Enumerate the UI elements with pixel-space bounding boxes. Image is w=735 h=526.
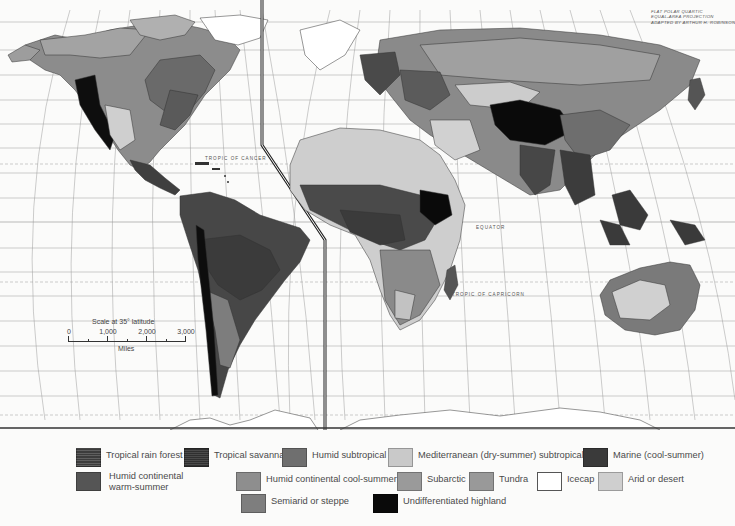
legend-label: Marine (cool-summer): [613, 450, 704, 461]
marine-swatch: [583, 448, 608, 467]
tropical-rain-forest-swatch: [76, 448, 101, 467]
legend-item-mediterranean: Mediterranean (dry-summer) subtropical: [388, 448, 584, 467]
humid-continental-warm-swatch: [76, 472, 101, 491]
scale-tick: [68, 336, 69, 342]
legend-label: Icecap: [567, 474, 594, 485]
credit-line-3: adapted by Arthur H. Robinson: [651, 20, 735, 25]
legend-item-tropical-rain-forest: Tropical rain forest: [76, 448, 183, 467]
legend-label: Tropical rain forest: [106, 450, 183, 461]
legend-item-highland: Undifferentiated highland: [373, 494, 506, 513]
legend-item-marine: Marine (cool-summer): [583, 448, 704, 467]
legend-label: Humid subtropical: [312, 450, 386, 461]
legend-item-humid-continental-cool: Humid continental cool-summer: [236, 472, 397, 491]
tropical-savanna-swatch: [184, 448, 209, 467]
scale-tick-label: 2,000: [138, 328, 156, 335]
tropic-of-capricorn-label: TROPIC OF CAPRICORN: [452, 292, 525, 297]
scale-tick-label: 0: [67, 328, 71, 335]
scale-tick-label: 1,000: [99, 328, 117, 335]
legend-label: Subarctic: [427, 474, 466, 485]
scale-tick: [146, 336, 147, 342]
legend-label: Tropical savanna: [214, 450, 284, 461]
legend-item-tundra: Tundra: [469, 472, 528, 491]
legend-label: Humid continental warm-summer: [109, 471, 189, 493]
humid-subtropical-swatch: [282, 448, 307, 467]
semiarid-swatch: [241, 494, 266, 513]
arid-swatch: [598, 472, 623, 491]
climate-legend: Tropical rain forest Tropical savanna Hu…: [0, 431, 735, 526]
tropic-of-cancer-label: TROPIC OF CANCER: [205, 156, 267, 161]
legend-label: Tundra: [499, 474, 528, 485]
icecap-swatch: [537, 472, 562, 491]
legend-item-humid-continental-warm: Humid continental warm-summer: [76, 472, 189, 493]
legend-item-subarctic: Subarctic: [397, 472, 466, 491]
legend-item-icecap: Icecap: [537, 472, 594, 491]
legend-item-arid: Arid or desert: [598, 472, 684, 491]
legend-label: Humid continental cool-summer: [266, 474, 397, 485]
scale-tick: [88, 339, 89, 342]
equator-label: EQUATOR: [476, 225, 505, 230]
subarctic-swatch: [397, 472, 422, 491]
projection-credit: Flat polar quartic equal-area projection…: [651, 9, 735, 25]
scale-tick: [107, 336, 108, 342]
tundra-swatch: [469, 472, 494, 491]
scale-bar: Scale at 35° latitude 0 1,000 2,000 3,00…: [62, 318, 182, 358]
scale-tick-label: 3,000: [177, 328, 195, 335]
legend-item-tropical-savanna: Tropical savanna: [184, 448, 284, 467]
legend-label: Arid or desert: [628, 474, 684, 485]
humid-continental-cool-swatch: [236, 472, 261, 491]
legend-label: Semiarid or steppe: [271, 496, 349, 507]
mediterranean-swatch: [388, 448, 413, 467]
legend-label: Mediterranean (dry-summer) subtropical: [418, 450, 584, 461]
legend-item-semiarid: Semiarid or steppe: [241, 494, 349, 513]
legend-item-humid-subtropical: Humid subtropical: [282, 448, 386, 467]
legend-label: Undifferentiated highland: [403, 496, 506, 507]
scale-tick: [166, 339, 167, 342]
scale-units: Miles: [118, 345, 134, 352]
highland-swatch: [373, 494, 398, 513]
scale-tick: [185, 336, 186, 342]
scale-title: Scale at 35° latitude: [92, 318, 154, 325]
climate-map: [0, 0, 735, 430]
scale-tick: [127, 339, 128, 342]
